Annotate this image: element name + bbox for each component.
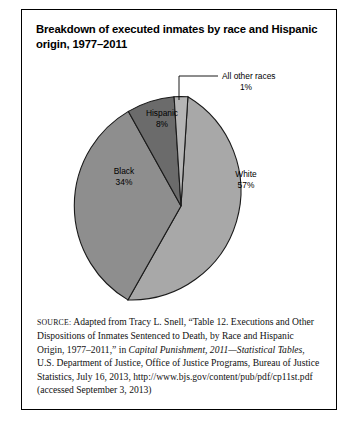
slice-label-all-other-races-value: 1% — [240, 82, 253, 92]
figure-card: Breakdown of executed inmates by race an… — [21, 9, 337, 410]
title-block: Breakdown of executed inmates by race an… — [22, 10, 336, 52]
slice-label-black-value: 34% — [116, 177, 133, 187]
source-publication-title: Capital Punishment, 2011—Statistical Tab… — [129, 344, 303, 355]
source-note: SOURCE: Adapted from Tracy L. Snell, “Ta… — [37, 315, 320, 397]
slice-label-white-value: 57% — [238, 180, 255, 190]
slice-label-hispanic-value: 8% — [156, 119, 169, 129]
slice-label-white-name: White — [235, 169, 257, 179]
source-block: SOURCE: Adapted from Tracy L. Snell, “Ta… — [22, 315, 336, 409]
slice-label-hispanic-name: Hispanic — [146, 108, 178, 118]
source-label: SOURCE: — [37, 318, 71, 327]
slice-label-black-name: Black — [114, 166, 135, 176]
page-title: Breakdown of executed inmates by race an… — [36, 22, 322, 52]
pie-chart: White 57% Black 34% Hispanic 8% All othe… — [22, 54, 335, 316]
slice-label-all-other-races-name: All other races — [222, 71, 276, 81]
chart-area: White 57% Black 34% Hispanic 8% All othe… — [22, 54, 336, 316]
